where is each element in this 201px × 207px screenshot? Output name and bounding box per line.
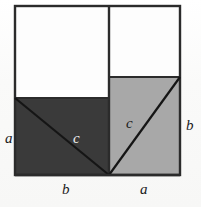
label-bottom-left-b: b xyxy=(62,181,70,197)
figure-root: THE WONDERFUL OF ANCIENT a b b a c c xyxy=(0,0,201,207)
label-left-side-a: a xyxy=(5,130,13,146)
label-right-side-b: b xyxy=(186,117,194,133)
pythagorean-dissection-diagram: a b b a c c xyxy=(0,0,201,207)
label-bottom-right-a: a xyxy=(140,181,148,197)
label-hypotenuse-left-c: c xyxy=(73,130,80,146)
label-hypotenuse-right-c: c xyxy=(126,115,133,131)
